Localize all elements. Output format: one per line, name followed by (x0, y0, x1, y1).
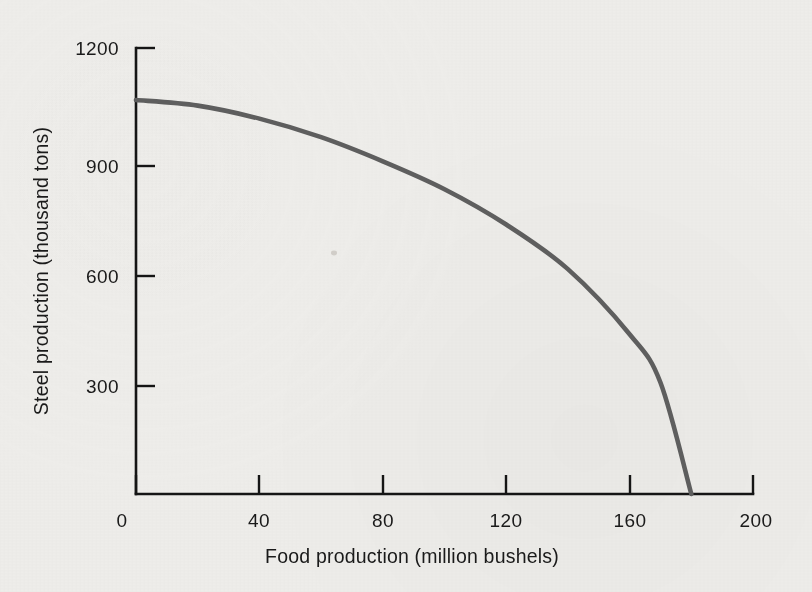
y-tick-label-600: 600 (86, 266, 119, 287)
paper-speck (331, 251, 337, 256)
y-axis-title: Steel production (thousand tons) (30, 127, 52, 415)
production-possibilities-chart: Steel production (thousand tons) Food pr… (0, 0, 812, 592)
x-tick-label-40: 40 (248, 510, 270, 531)
x-axis-title: Food production (million bushels) (265, 545, 559, 567)
y-tick-label-300: 300 (86, 376, 119, 397)
x-tick-label-0: 0 (117, 510, 128, 531)
y-tick-label-1200: 1200 (75, 38, 119, 59)
x-axis-ticks (136, 475, 753, 494)
x-axis-tick-labels: 0 40 80 120 160 200 (117, 510, 773, 531)
y-axis-tick-labels: 1200 900 600 300 (75, 38, 119, 397)
y-tick-label-900: 900 (86, 156, 119, 177)
production-possibilities-frontier-curve (136, 100, 691, 494)
x-tick-label-160: 160 (614, 510, 647, 531)
x-tick-label-80: 80 (372, 510, 394, 531)
chart-container: Steel production (thousand tons) Food pr… (0, 0, 812, 592)
x-tick-label-200: 200 (740, 510, 773, 531)
x-tick-label-120: 120 (490, 510, 523, 531)
